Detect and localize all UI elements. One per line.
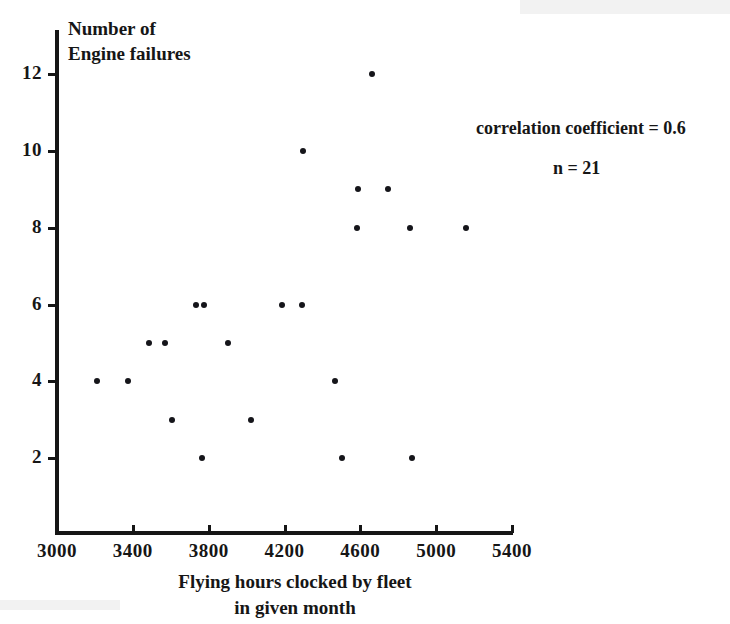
x-axis-tick <box>56 525 59 533</box>
sample-size-annotation: n = 21 <box>553 158 600 179</box>
y-axis-tick <box>48 150 56 153</box>
data-point <box>193 302 199 308</box>
x-axis-tick-label: 3800 <box>169 540 249 562</box>
x-axis-tick <box>208 525 211 533</box>
x-axis-tick <box>359 525 362 533</box>
data-point <box>125 378 131 384</box>
data-point <box>463 225 469 231</box>
data-point <box>409 455 415 461</box>
y-axis-tick-label: 12 <box>0 62 42 84</box>
data-point <box>169 417 175 423</box>
y-axis-tick <box>48 380 56 383</box>
data-point <box>201 302 207 308</box>
data-point <box>339 455 345 461</box>
data-point <box>355 186 361 192</box>
data-point <box>146 340 152 346</box>
x-axis-tick-label: 5400 <box>472 540 552 562</box>
y-axis-tick-label: 8 <box>0 216 42 238</box>
data-point <box>369 71 375 77</box>
data-point <box>279 302 285 308</box>
data-point <box>300 148 306 154</box>
scan-artifact <box>520 0 730 14</box>
y-axis-tick <box>48 304 56 307</box>
x-axis-tick <box>132 525 135 533</box>
y-axis-tick <box>48 457 56 460</box>
data-point <box>162 340 168 346</box>
data-point <box>354 225 360 231</box>
y-axis-tick-label: 6 <box>0 293 42 315</box>
y-axis-tick-label: 10 <box>0 139 42 161</box>
data-point <box>248 417 254 423</box>
y-axis-tick <box>48 73 56 76</box>
y-axis-tick-label: 2 <box>0 446 42 468</box>
data-point <box>225 340 231 346</box>
x-axis-title: Flying hours clocked by fleet in given m… <box>95 569 495 620</box>
y-axis-title: Number of Engine failures <box>68 16 191 66</box>
data-point <box>385 186 391 192</box>
y-axis-tick-label: 4 <box>0 369 42 391</box>
x-axis-tick-label: 3000 <box>17 540 97 562</box>
data-point <box>332 378 338 384</box>
data-point <box>199 455 205 461</box>
data-point <box>299 302 305 308</box>
data-point <box>94 378 100 384</box>
x-axis-tick <box>435 525 438 533</box>
y-axis-tick <box>48 227 56 230</box>
correlation-coefficient-annotation: correlation coefficient = 0.6 <box>476 118 686 139</box>
x-axis-tick-label: 5000 <box>396 540 476 562</box>
scatter-plot-figure: Number of Engine failures Flying hours c… <box>0 0 730 624</box>
x-axis-tick <box>511 525 514 533</box>
x-axis-tick-label: 4200 <box>245 540 325 562</box>
x-axis-tick-label: 3400 <box>93 540 173 562</box>
x-axis-tick-label: 4600 <box>320 540 400 562</box>
data-point <box>407 225 413 231</box>
x-axis-tick <box>284 525 287 533</box>
